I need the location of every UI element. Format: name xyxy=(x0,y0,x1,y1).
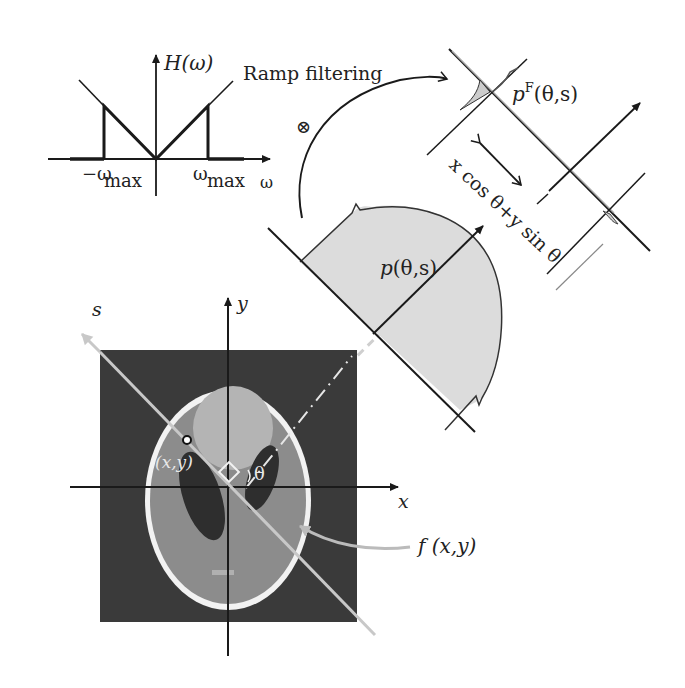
y-axis-label: y xyxy=(236,292,248,314)
s-axis-label: s xyxy=(92,298,102,320)
svg-text:ω: ω xyxy=(193,163,208,184)
h-omega-label: H(ω) xyxy=(163,51,213,75)
s-direction-arrow xyxy=(549,103,640,191)
theta-label: θ xyxy=(254,463,265,484)
ramp-filter-plot: H(ω) ω −ω max ω max xyxy=(48,51,273,196)
point-xy-marker xyxy=(183,436,191,444)
ramp-filtering-arrow: Ramp filtering ⊗ xyxy=(243,62,447,218)
pos-omega-max-label: ω max xyxy=(193,163,245,191)
point-xy-label: (x,y) xyxy=(155,452,193,472)
projection-label: p(θ,s) xyxy=(380,256,437,280)
ramp-filtering-label: Ramp filtering xyxy=(243,62,382,84)
omega-axis-label: ω xyxy=(260,173,273,192)
f-xy-label: f (x,y) xyxy=(416,534,476,558)
x-axis-label: x xyxy=(398,490,409,512)
neg-omega-max-label: −ω max xyxy=(82,163,142,191)
filtered-projection-label: pF(θ,s) xyxy=(512,80,578,106)
filtered-baseline xyxy=(449,49,650,251)
fbp-diagram: H(ω) ω −ω max ω max Ramp filtering ⊗ p(θ… xyxy=(0,0,685,688)
convolution-symbol-icon: ⊗ xyxy=(296,116,311,137)
svg-text:max: max xyxy=(104,170,142,191)
s-axis-arrow xyxy=(82,334,100,352)
svg-text:max: max xyxy=(207,170,245,191)
